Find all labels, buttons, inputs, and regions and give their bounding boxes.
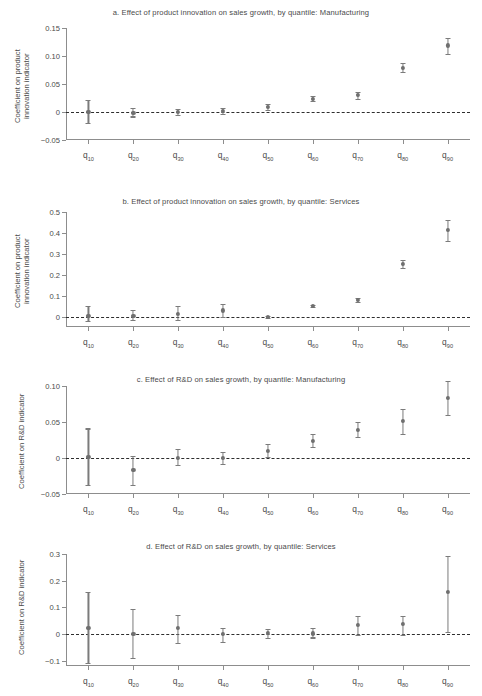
error-bar-cap-lower [310, 637, 315, 638]
error-bar-cap-lower [355, 635, 360, 636]
error-bar-cap-upper [400, 616, 405, 617]
x-tick [403, 666, 404, 670]
x-axis-label-q40: q40 [218, 504, 229, 516]
panel-c-ylabel: Coefficient on R&D indicator [18, 386, 27, 496]
y-tick-label: 0.3 [49, 249, 60, 258]
y-tick [62, 296, 66, 297]
error-bar-cap-lower [355, 302, 360, 303]
x-tick [178, 666, 179, 670]
error-bar-cap-lower [221, 642, 226, 643]
panel-b-title: b. Effect of product innovation on sales… [0, 197, 482, 206]
error-bar-cap-upper [355, 422, 360, 423]
y-tick-label: 0.1 [49, 291, 60, 300]
error-bar-cap-lower [445, 241, 450, 242]
x-axis-label-q20: q20 [128, 337, 139, 349]
error-bar-cap-upper [86, 100, 91, 101]
x-tick [268, 327, 269, 331]
panel-a-title: a. Effect of product innovation on sales… [0, 8, 482, 17]
x-tick [403, 327, 404, 331]
y-tick [62, 84, 66, 85]
panel-d-plot: −0.100.10.20.3q10q20q30q40q50q60q70q80q9… [66, 554, 470, 666]
y-tick-label: 0 [56, 630, 60, 639]
y-tick [62, 254, 66, 255]
y-tick [62, 386, 66, 387]
error-bar-cap-upper [131, 310, 136, 311]
y-tick-label: −0.05 [41, 136, 60, 145]
error-bar-cap-lower [221, 464, 226, 465]
x-tick [448, 140, 449, 144]
data-point [445, 395, 449, 399]
error-bar-cap-lower [86, 663, 91, 664]
x-axis-label-q80: q80 [397, 676, 408, 688]
x-axis-label-q70: q70 [352, 150, 363, 162]
panel-b-y-axis [66, 212, 67, 327]
x-axis-label-q20: q20 [128, 504, 139, 516]
data-point [266, 449, 270, 453]
x-axis-label-q60: q60 [307, 504, 318, 516]
zero-reference-line [66, 112, 470, 113]
error-bar-cap-upper [86, 428, 91, 429]
data-point [356, 623, 360, 627]
y-tick [62, 233, 66, 234]
y-tick-label: 0 [56, 108, 60, 117]
data-point [131, 110, 135, 114]
y-tick-label: 0 [56, 454, 60, 463]
x-axis-label-q90: q90 [442, 150, 453, 162]
data-point [311, 96, 315, 100]
y-tick-label: −0.1 [45, 656, 60, 665]
error-bar-cap-lower [266, 457, 271, 458]
panel-d-title: d. Effect of R&D on sales growth, by qua… [0, 542, 482, 551]
y-tick [62, 554, 66, 555]
error-bar-cap-upper [176, 306, 181, 307]
x-tick [88, 327, 89, 331]
x-tick [268, 666, 269, 670]
x-axis-label-q50: q50 [263, 150, 274, 162]
data-point [445, 228, 449, 232]
x-axis-label-q60: q60 [307, 676, 318, 688]
error-bar-cap-upper [221, 628, 226, 629]
data-point [221, 308, 225, 312]
y-tick-label: 0.2 [49, 576, 60, 585]
error-bar-cap-upper [131, 456, 136, 457]
error-bar-cap-lower [445, 632, 450, 633]
x-axis-label-q60: q60 [307, 150, 318, 162]
y-tick-label: 0.05 [45, 80, 60, 89]
y-tick-label: 0.3 [49, 550, 60, 559]
data-point [131, 632, 135, 636]
x-axis-label-q80: q80 [397, 504, 408, 516]
error-bar-cap-upper [400, 409, 405, 410]
error-bar-cap-upper [131, 108, 136, 109]
panel-b: b. Effect of product innovation on sales… [0, 180, 482, 358]
y-tick [62, 28, 66, 29]
error-bar-cap-lower [221, 114, 226, 115]
data-point [401, 622, 405, 626]
y-tick [62, 140, 66, 141]
x-tick [223, 494, 224, 498]
panel-c: c. Effect of R&D on sales growth, by qua… [0, 360, 482, 528]
error-bar-cap-lower [176, 320, 181, 321]
error-bar-cap-upper [310, 628, 315, 629]
x-tick [448, 494, 449, 498]
x-tick [133, 666, 134, 670]
x-tick [223, 140, 224, 144]
error-bar-cap-upper [445, 381, 450, 382]
data-point [221, 456, 225, 460]
x-tick [313, 327, 314, 331]
panel-a-plot: −0.0500.050.100.15q10q20q30q40q50q60q70q… [66, 28, 470, 140]
error-bar-cap-lower [131, 658, 136, 659]
y-tick-label: 0.15 [45, 24, 60, 33]
x-tick [88, 140, 89, 144]
x-tick [223, 666, 224, 670]
x-axis-label-q10: q10 [83, 337, 94, 349]
x-axis-label-q50: q50 [263, 676, 274, 688]
error-bar-cap-upper [445, 220, 450, 221]
panel-c-y-axis [66, 386, 67, 494]
panel-b-plot: 00.10.20.30.40.5q10q20q30q40q50q60q70q80… [66, 212, 470, 327]
data-point [86, 626, 90, 630]
error-bar-cap-lower [86, 123, 91, 124]
x-tick [178, 140, 179, 144]
x-axis-label-q60: q60 [307, 337, 318, 349]
y-tick-label: 0.2 [49, 270, 60, 279]
x-axis-label-q90: q90 [442, 504, 453, 516]
error-bar-cap-upper [310, 434, 315, 435]
